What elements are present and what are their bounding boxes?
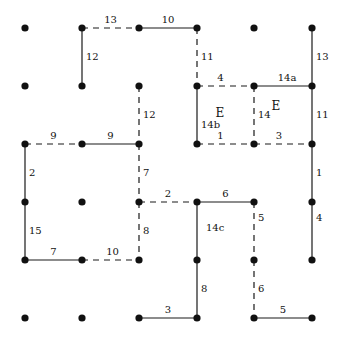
edge-weight-label: 9: [107, 130, 113, 141]
graph-node: [21, 256, 28, 263]
edge-weight-label: 7: [50, 246, 56, 257]
graph-node: [193, 198, 200, 205]
graph-node: [135, 24, 142, 31]
edge-weight-label: 3: [165, 304, 171, 315]
graph-node: [250, 82, 257, 89]
graph-node: [135, 256, 142, 263]
edge-weight-label: 13: [316, 51, 329, 62]
edge-weight-label: 14c: [206, 222, 225, 233]
graph-node: [78, 256, 85, 263]
edge-weight-label: 6: [222, 188, 228, 199]
graph-node: [193, 82, 200, 89]
edge-weight-label: 11: [201, 51, 214, 62]
edge-weight-label: 1: [217, 130, 223, 141]
graph-node: [250, 198, 257, 205]
graph-diagram: 131012111312414a14b141113992711528614c54…: [0, 0, 342, 340]
graph-node: [308, 24, 315, 31]
edge-weight-label: 4: [316, 212, 322, 223]
graph-node: [21, 24, 28, 31]
graph-node: [193, 314, 200, 321]
region-label: E: [216, 106, 225, 120]
edge-weight-label: 10: [106, 246, 119, 257]
graph-node: [21, 82, 28, 89]
edge-weight-label: 12: [86, 51, 99, 62]
graph-node: [135, 198, 142, 205]
edge-weight-label: 11: [316, 109, 329, 120]
edge-weight-label: 6: [258, 283, 264, 294]
edge-weight-label: 15: [29, 225, 42, 236]
edge-weight-label: 14a: [278, 72, 297, 83]
graph-node: [78, 198, 85, 205]
graph-node: [308, 198, 315, 205]
edge-weight-label: 2: [29, 167, 35, 178]
graph-node: [308, 256, 315, 263]
edge-weight-label: 14b: [201, 119, 220, 130]
edge-weight-label: 5: [258, 212, 264, 223]
edge-weight-label: 8: [201, 283, 207, 294]
graph-node: [78, 314, 85, 321]
graph-node: [135, 140, 142, 147]
edge-weight-label: 4: [217, 72, 223, 83]
graph-node: [250, 24, 257, 31]
graph-node: [21, 314, 28, 321]
edge-weight-label: 12: [143, 109, 156, 120]
edge-weight-label: 10: [162, 14, 175, 25]
graph-node: [135, 82, 142, 89]
graph-node: [21, 140, 28, 147]
graph-node: [78, 24, 85, 31]
graph-node: [308, 140, 315, 147]
edge-weight-label: 8: [143, 225, 149, 236]
edge-weight-label: 2: [165, 188, 171, 199]
edge-weight-label: 14: [258, 109, 271, 120]
edge-labels-layer: 131012111312414a14b141113992711528614c54…: [29, 14, 329, 315]
graph-node: [21, 198, 28, 205]
graph-node: [78, 140, 85, 147]
graph-node: [135, 314, 142, 321]
edges-layer: [25, 28, 312, 318]
graph-node: [193, 256, 200, 263]
graph-node: [250, 256, 257, 263]
edge-weight-label: 3: [276, 130, 282, 141]
graph-node: [193, 24, 200, 31]
nodes-layer: [21, 24, 315, 321]
graph-node: [78, 82, 85, 89]
graph-node: [250, 314, 257, 321]
edge-weight-label: 1: [316, 167, 322, 178]
graph-node: [250, 140, 257, 147]
edge-weight-label: 7: [143, 167, 149, 178]
edge-weight-label: 13: [104, 14, 117, 25]
edge-weight-label: 5: [280, 304, 286, 315]
region-label: E: [272, 99, 281, 113]
edge-weight-label: 9: [50, 130, 56, 141]
graph-node: [308, 82, 315, 89]
graph-node: [308, 314, 315, 321]
grid-graph: 131012111312414a14b141113992711528614c54…: [0, 0, 342, 340]
graph-node: [193, 140, 200, 147]
